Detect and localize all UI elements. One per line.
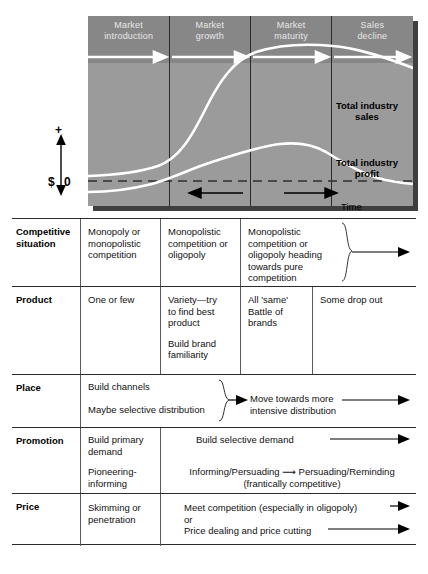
chart-panel: Market introduction Market growth Market… <box>88 16 413 206</box>
row1-brace-arrow-icon <box>12 219 416 287</box>
cell-product-decline: Some drop out <box>320 294 412 306</box>
row5-arrow-icons <box>12 494 416 546</box>
row3-brace-arrow-icon <box>12 375 416 428</box>
profit-label-line2: profit <box>355 168 379 179</box>
sales-label-line1: Total industry <box>336 100 398 111</box>
product-life-cycle-chart: + $ 0 Market introduction Market growth … <box>0 0 428 214</box>
cell-block: Variety—try to find best product <box>168 294 238 329</box>
cell-line: One or few <box>88 294 134 305</box>
column-divider-2 <box>160 287 161 375</box>
table-row-place: Place Build channels Maybe selective dis… <box>12 374 416 427</box>
cell-product-maturity: All 'same' Battle of brands <box>248 294 314 329</box>
row4-arrow-icon <box>12 428 416 494</box>
time-axis-label: Time <box>341 201 362 212</box>
table-row-competitive-situation: Competitive situation Monopoly or monopo… <box>12 218 416 286</box>
cell-product-growth: Variety—try to find best product Build b… <box>168 294 238 361</box>
table-row-promotion: Promotion Build primary demand Pioneerin… <box>12 427 416 493</box>
cell-line: Some drop out <box>320 294 382 305</box>
cell-line: Battle of brands <box>248 306 283 329</box>
time-axis-arrow-icon <box>189 188 337 198</box>
column-divider-1 <box>80 287 81 375</box>
total-industry-profit-label: Total industry profit <box>326 157 408 179</box>
row-label-product: Product <box>16 294 52 306</box>
stage-arrows <box>88 52 409 62</box>
marketing-mix-matrix: Competitive situation Monopoly or monopo… <box>12 218 416 545</box>
cell-line: All 'same' <box>248 294 288 305</box>
cell-line: Variety—try <box>168 294 217 305</box>
column-divider-3 <box>240 287 241 375</box>
cell-line: Build brand <box>168 338 216 349</box>
profit-label-line1: Total industry <box>336 157 398 168</box>
table-row-product: Product One or few Variety—try to find b… <box>12 286 416 374</box>
cell-product-introduction: One or few <box>88 294 158 306</box>
cell-line: familiarity <box>168 349 208 360</box>
sales-label-line2: sales <box>355 111 379 122</box>
cell-line: product <box>168 317 200 328</box>
cell-block: Build brand familiarity <box>168 338 238 361</box>
cell-line: to find best <box>168 306 214 317</box>
y-axis-double-arrow-icon <box>52 134 70 196</box>
total-industry-sales-label: Total industry sales <box>326 100 408 122</box>
table-row-price: Price Skimming or penetration Meet compe… <box>12 493 416 545</box>
